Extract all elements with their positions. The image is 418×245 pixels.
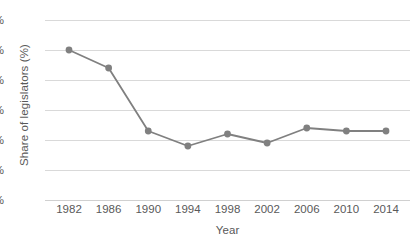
data-point: [264, 140, 271, 147]
y-axis-tick-label: 0%: [0, 194, 4, 206]
data-point: [105, 65, 112, 72]
y-axis-tick-label: 30%: [0, 104, 4, 116]
y-axis-tick-label: 60%: [0, 14, 4, 26]
data-point: [224, 131, 231, 138]
x-axis-tick-labels: 198219861990199419982002200620102014: [45, 203, 410, 221]
y-axis-tick-label: 40%: [0, 74, 4, 86]
x-axis-title: Year: [45, 224, 410, 236]
data-point: [303, 125, 310, 132]
data-point: [145, 128, 152, 135]
data-point: [66, 47, 73, 54]
data-point: [383, 128, 390, 135]
data-series: [45, 20, 410, 200]
plot-area: [45, 20, 410, 200]
data-point: [184, 143, 191, 150]
y-axis-tick-label: 50%: [0, 44, 4, 56]
y-axis-tick-label: 20%: [0, 134, 4, 146]
series-markers: [66, 47, 390, 150]
x-axis-tick-label: 2014: [356, 203, 416, 215]
line-chart: Share of legislators (%) 0%10%20%30%40%5…: [0, 0, 418, 245]
y-axis-tick-label: 10%: [0, 164, 4, 176]
gridline: [45, 200, 410, 201]
data-point: [343, 128, 350, 135]
